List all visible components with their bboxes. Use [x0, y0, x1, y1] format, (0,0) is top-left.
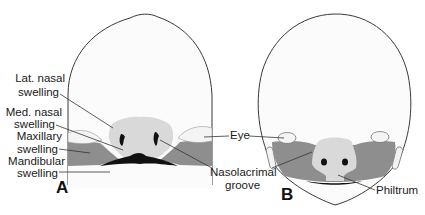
label-maxillary-line1: Maxillary	[17, 130, 63, 142]
panel-b-nostril-right	[342, 159, 348, 166]
label-maxillary-line2: swelling	[17, 143, 58, 155]
label-lat-nasal-line2: swelling	[18, 86, 59, 98]
panel-b-nostril-left	[321, 159, 327, 166]
label-nasolacrimal-line2: groove	[225, 179, 260, 191]
embryo-face-diagram: A Lat. nasal swelling Med. nasal swellin…	[0, 0, 425, 215]
label-eye: Eye	[230, 129, 250, 141]
label-mandibular-line2: swelling	[17, 167, 58, 179]
label-mandibular-line1: Mandibular	[8, 155, 65, 167]
label-med-nasal-line2: swelling	[14, 118, 55, 130]
label-nasolacrimal-line1: Nasolacrimal	[210, 166, 276, 178]
panel-a-nasal-swellings	[109, 117, 173, 159]
panel-a-letter: A	[56, 178, 68, 197]
panel-b-letter: B	[281, 185, 293, 204]
label-lat-nasal-line1: Lat. nasal	[15, 72, 65, 84]
panel-a: A Lat. nasal swelling Med. nasal swellin…	[6, 14, 212, 197]
label-med-nasal-line1: Med. nasal	[6, 106, 62, 118]
panel-b-eye-right	[371, 132, 389, 143]
label-philtrum: Philtrum	[376, 184, 418, 196]
panel-b: B Philtrum	[258, 14, 418, 205]
